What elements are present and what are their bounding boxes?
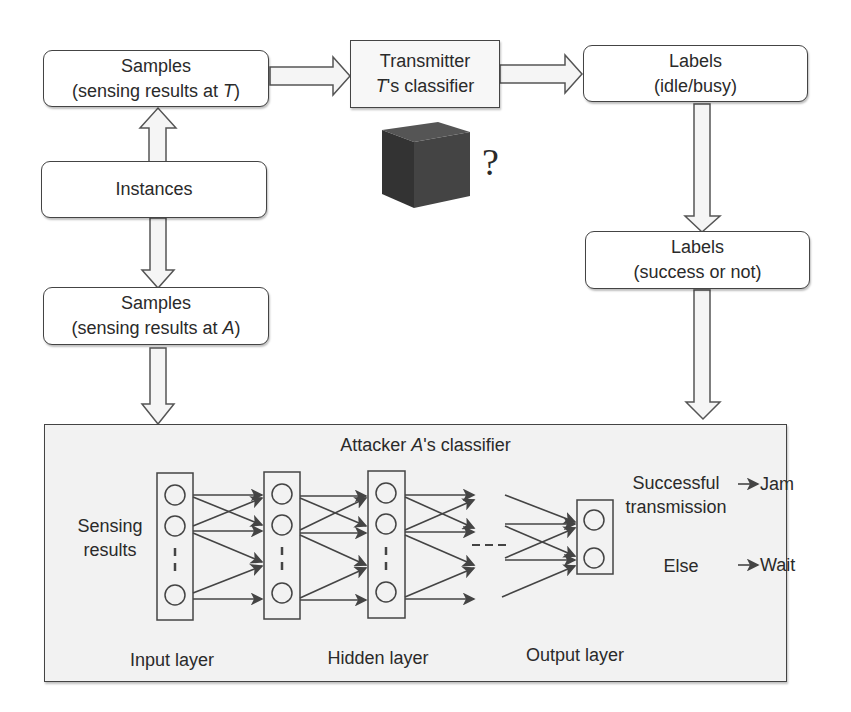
output-condition-successful: Successful transmission [620,471,732,519]
hidden-layer-label: Hidden layer [323,646,433,670]
output-layer-rect [577,500,613,574]
sensing-results-label: Sensing results [70,514,150,562]
hidden-layer-2-rect [368,471,405,618]
neural-network-diagram [0,0,851,712]
output-action-jam: Jam [760,472,794,496]
output-condition-else: Else [651,554,711,578]
input-layer-rect [157,473,193,620]
input-layer-label: Input layer [122,648,222,672]
hidden-layer-1-rect [264,472,300,619]
output-layer-label: Output layer [515,643,635,667]
output-action-wait: Wait [760,553,795,577]
